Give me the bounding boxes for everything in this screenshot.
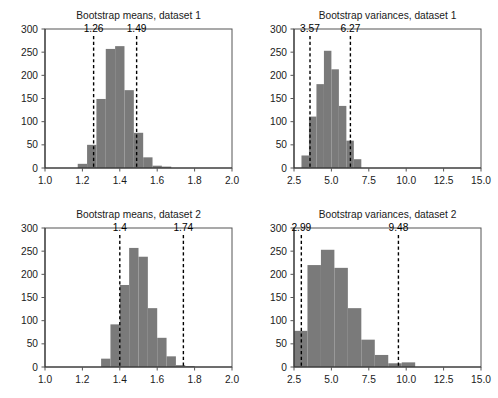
x-tick-label: 1.4	[113, 175, 127, 186]
x-tick-label: 1.8	[188, 374, 202, 385]
histogram-bar	[361, 340, 374, 367]
histogram-bars	[101, 248, 195, 367]
histogram-bar	[120, 285, 129, 367]
histogram-bar	[354, 159, 361, 168]
cut-line-label: 9.48	[389, 222, 409, 233]
histogram-bar	[316, 84, 323, 168]
histogram-bar	[339, 106, 346, 168]
histogram-bar	[115, 46, 124, 168]
histogram-bar	[157, 338, 166, 367]
histogram-bar	[324, 51, 331, 168]
x-tick-label: 2.5	[287, 175, 301, 186]
chart-bootstrap-means-dataset-1: Bootstrap means, dataset 105010015020025…	[0, 0, 249, 199]
histogram-bar	[134, 133, 143, 168]
y-tick-label: 200	[270, 269, 287, 280]
x-tick-label: 2.5	[287, 374, 301, 385]
x-tick-label: 7.5	[362, 175, 376, 186]
y-tick-label: 0	[281, 163, 287, 174]
chart-title: Bootstrap means, dataset 2	[76, 209, 201, 220]
histogram-bar	[101, 359, 110, 367]
y-tick-label: 100	[270, 116, 287, 127]
y-tick-label: 100	[21, 315, 38, 326]
histogram-bar	[388, 363, 401, 367]
x-tick-label: 7.5	[362, 374, 376, 385]
cut-line-label: 2.99	[291, 222, 311, 233]
y-tick-label: 200	[270, 70, 287, 81]
x-tick-label: 5.0	[324, 175, 338, 186]
chart-bootstrap-means-dataset-2: Bootstrap means, dataset 205010015020025…	[0, 199, 249, 398]
x-axis-ticks: 2.55.07.510.012.515.0	[287, 168, 491, 186]
y-tick-label: 250	[21, 246, 38, 257]
x-tick-label: 1.2	[75, 374, 89, 385]
cut-line-label: 3.57	[300, 23, 320, 34]
histogram-bar	[106, 49, 115, 168]
y-axis-ticks: 050100150200250300	[21, 223, 45, 373]
x-tick-label: 1.6	[150, 175, 164, 186]
y-tick-label: 50	[27, 338, 39, 349]
cut-line-label: 1.26	[84, 23, 104, 34]
y-tick-label: 300	[270, 223, 287, 234]
x-tick-label: 1.2	[75, 175, 89, 186]
cut-line-label: 6.27	[340, 23, 360, 34]
y-tick-label: 0	[281, 362, 287, 373]
chart-title: Bootstrap variances, dataset 2	[319, 209, 457, 220]
panel-bootstrap-variances-dataset-2: Bootstrap variances, dataset 20501001502…	[249, 199, 498, 398]
cut-line-label: 1.49	[127, 23, 147, 34]
chart-title: Bootstrap means, dataset 1	[76, 10, 201, 21]
histogram-bar	[143, 157, 152, 168]
histogram-bar	[78, 164, 87, 168]
x-tick-label: 15.0	[471, 374, 491, 385]
cut-line-label: 1.4	[113, 222, 127, 233]
x-axis-ticks: 1.01.21.41.61.82.0	[38, 367, 239, 385]
x-tick-label: 12.5	[434, 175, 454, 186]
y-tick-label: 250	[270, 47, 287, 58]
y-tick-label: 0	[32, 163, 38, 174]
histogram-bar	[167, 356, 176, 367]
y-tick-label: 100	[21, 116, 38, 127]
histogram-bar	[139, 257, 148, 367]
chart-bootstrap-variances-dataset-2: Bootstrap variances, dataset 20501001502…	[249, 199, 498, 398]
histogram-bar	[331, 69, 338, 168]
histogram-bar	[301, 155, 308, 168]
y-tick-label: 300	[21, 24, 38, 35]
x-tick-label: 1.6	[150, 374, 164, 385]
bootstrap-histogram-figure: Bootstrap means, dataset 105010015020025…	[0, 0, 498, 398]
y-tick-label: 300	[21, 223, 38, 234]
y-tick-label: 200	[21, 269, 38, 280]
y-tick-label: 250	[270, 246, 287, 257]
x-tick-label: 1.4	[113, 374, 127, 385]
chart-title: Bootstrap variances, dataset 1	[319, 10, 457, 21]
x-tick-label: 1.0	[38, 175, 52, 186]
panel-bootstrap-means-dataset-2: Bootstrap means, dataset 205010015020025…	[0, 199, 249, 398]
y-tick-label: 300	[270, 24, 287, 35]
histogram-bar	[375, 355, 388, 367]
x-tick-label: 2.0	[225, 175, 239, 186]
y-tick-label: 150	[270, 93, 287, 104]
histogram-bar	[402, 362, 415, 367]
y-tick-label: 100	[270, 315, 287, 326]
histogram-bar	[321, 250, 334, 367]
y-tick-label: 150	[21, 93, 38, 104]
x-tick-label: 1.8	[188, 175, 202, 186]
x-axis-ticks: 2.55.07.510.012.515.0	[287, 367, 491, 385]
histogram-bars	[294, 250, 415, 367]
y-axis-ticks: 050100150200250300	[21, 24, 45, 174]
y-tick-label: 150	[21, 292, 38, 303]
x-tick-label: 1.0	[38, 374, 52, 385]
histogram-bar	[87, 145, 96, 168]
y-axis-ticks: 050100150200250300	[270, 24, 294, 174]
y-tick-label: 50	[276, 338, 288, 349]
y-tick-label: 250	[21, 47, 38, 58]
y-axis-ticks: 050100150200250300	[270, 223, 294, 373]
x-tick-label: 12.5	[434, 374, 454, 385]
x-axis-ticks: 1.01.21.41.61.82.0	[38, 168, 239, 186]
y-tick-label: 0	[32, 362, 38, 373]
x-tick-label: 15.0	[471, 175, 491, 186]
histogram-bar	[124, 90, 133, 168]
x-tick-label: 5.0	[324, 374, 338, 385]
y-tick-label: 50	[276, 139, 288, 150]
histogram-bars	[78, 46, 172, 168]
x-tick-label: 10.0	[396, 374, 416, 385]
y-tick-label: 200	[21, 70, 38, 81]
histogram-bar	[348, 308, 361, 367]
